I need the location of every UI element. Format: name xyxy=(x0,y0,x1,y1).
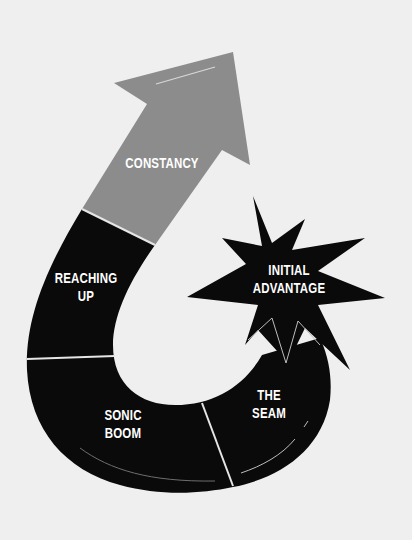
label-line: CONSTANCY xyxy=(121,154,203,172)
label-line: SEAM xyxy=(228,404,310,422)
label-sonic-boom: SONIC BOOM xyxy=(82,406,164,442)
label-constancy: CONSTANCY xyxy=(121,154,203,172)
label-line: ADVANTAGE xyxy=(248,279,330,297)
label-line: BOOM xyxy=(82,424,164,442)
label-line: INITIAL xyxy=(248,261,330,279)
label-line: REACHING xyxy=(45,269,127,287)
label-line: THE xyxy=(228,386,310,404)
label-line: UP xyxy=(45,287,127,305)
label-initial-advantage: INITIAL ADVANTAGE xyxy=(248,261,330,297)
label-reaching-up: REACHING UP xyxy=(45,269,127,305)
label-line: SONIC xyxy=(82,406,164,424)
label-the-seam: THE SEAM xyxy=(228,386,310,422)
